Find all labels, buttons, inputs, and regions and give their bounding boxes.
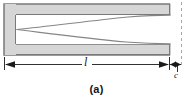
dimension-gap-arrow-left: [170, 62, 176, 68]
bottom-bar-group: [16, 44, 170, 55]
top-bar-group: [16, 4, 170, 15]
dimension-gap-label: c: [174, 71, 178, 80]
left-end-group: [4, 4, 16, 55]
interior-cavity: [16, 15, 170, 44]
left-end-fill: [4, 4, 16, 55]
upper-beam-fill: [16, 4, 170, 15]
lower-beam-fill: [16, 44, 170, 55]
dimension-length-arrow-left: [5, 61, 15, 67]
figure-container: l c (a): [0, 0, 193, 100]
dimension-length-label: l: [84, 56, 87, 68]
dimension-length-arrow-right: [159, 61, 169, 67]
figure-caption: (a): [0, 83, 193, 95]
